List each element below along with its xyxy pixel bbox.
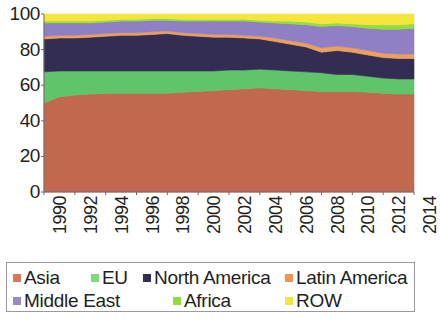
legend-swatch-icon	[143, 274, 151, 282]
plot-region: 100806040200 199019921994199619982000200…	[0, 0, 423, 252]
x-axis-tick-label: 2008	[329, 196, 347, 252]
legend-item: EU	[91, 266, 128, 289]
x-axis: 1990199219941996199820002002200420062008…	[44, 196, 416, 252]
legend-swatch-icon	[173, 297, 181, 305]
x-axis-tick-label: 2010	[359, 196, 377, 252]
chart-legend: AsiaEUNorth AmericaLatin America Middle …	[6, 262, 415, 312]
x-axis-tick-label: 1992	[82, 196, 100, 252]
legend-label: Latin America	[296, 267, 407, 288]
y-axis: 100806040200	[2, 0, 40, 200]
legend-row: AsiaEUNorth AmericaLatin America	[13, 266, 414, 289]
x-axis-tick-label: 1998	[174, 196, 192, 252]
x-axis-tick-label: 2004	[267, 196, 285, 252]
x-axis-tick-label: 2014	[421, 196, 439, 252]
legend-swatch-icon	[13, 274, 21, 282]
x-axis-tick-label: 1994	[113, 196, 131, 252]
legend-item: Africa	[173, 289, 231, 312]
legend-swatch-icon	[285, 274, 293, 282]
y-axis-tick-label: 100	[2, 4, 40, 23]
y-axis-tick-label: 20	[2, 146, 40, 165]
x-axis-tick-label: 2000	[205, 196, 223, 252]
y-axis-tick-label: 60	[2, 75, 40, 94]
legend-label: ROW	[296, 290, 342, 311]
legend-row: Middle EastAfricaROW	[13, 289, 414, 312]
y-axis-tick-label: 40	[2, 111, 40, 130]
y-axis-tick-label: 0	[2, 182, 40, 201]
legend-item: North America	[143, 266, 270, 289]
legend-swatch-icon	[285, 297, 293, 305]
legend-swatch-icon	[91, 274, 99, 282]
legend-label: North America	[154, 267, 270, 288]
legend-item: Asia	[13, 266, 60, 289]
legend-label: Middle East	[24, 290, 120, 311]
x-axis-tick-label: 2012	[390, 196, 408, 252]
x-axis-tick-label: 1996	[144, 196, 162, 252]
legend-label: EU	[102, 267, 128, 288]
x-axis-tick-label: 2002	[236, 196, 254, 252]
legend-label: Africa	[184, 290, 231, 311]
legend-item: Latin America	[285, 266, 407, 289]
legend-item: ROW	[285, 289, 342, 312]
legend-item: Middle East	[13, 289, 120, 312]
legend-swatch-icon	[13, 297, 21, 305]
area-series-asia	[44, 88, 414, 192]
x-axis-tick-label: 2006	[298, 196, 316, 252]
y-axis-tick-label: 80	[2, 40, 40, 59]
legend-label: Asia	[24, 267, 60, 288]
x-axis-tick-label: 1990	[51, 196, 69, 252]
